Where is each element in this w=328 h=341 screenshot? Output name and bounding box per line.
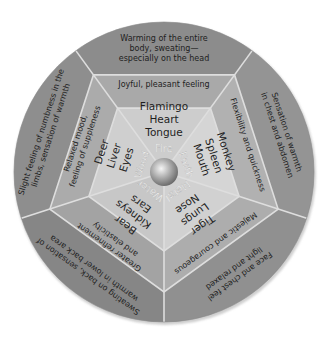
center-ball	[150, 158, 178, 186]
organ-animal-label: Tongue	[144, 126, 183, 138]
element-label-fire: Fire	[155, 143, 173, 154]
sensation-label: especially on the head	[119, 54, 210, 63]
organ-animal-label: Flamingo	[140, 100, 188, 112]
sensation-label: Warming of the entire	[120, 34, 208, 43]
five-elements-wheel: FireFlamingoHeartTongueJoyful, pleasant …	[0, 0, 328, 341]
sensation-label: body, sweating—	[130, 44, 199, 53]
organ-animal-label: Heart	[149, 113, 178, 125]
feeling-label: Joyful, pleasant feeling	[117, 80, 209, 89]
